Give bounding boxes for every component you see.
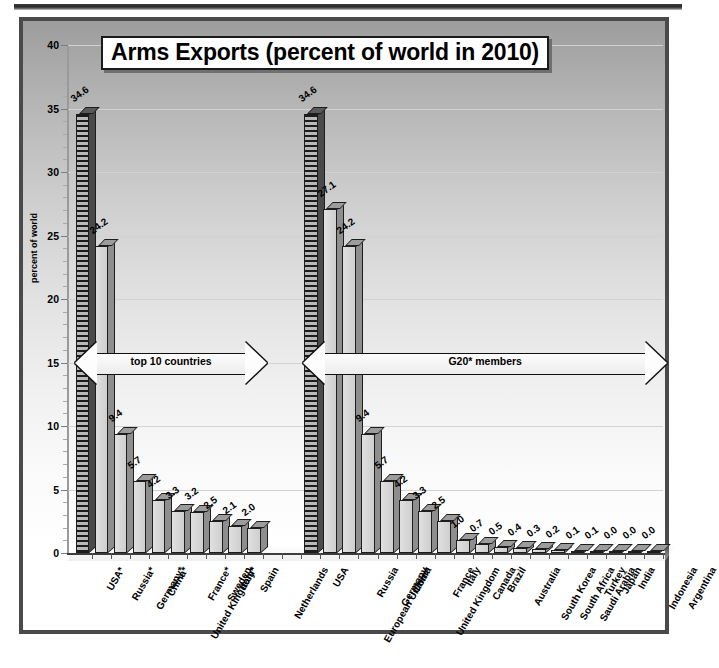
x-tick-mark <box>378 553 379 559</box>
bar: 9.4 <box>114 434 128 553</box>
y-tick-label: 10 <box>47 420 59 432</box>
bar-series: 34.624.29.45.74.23.33.22.52.12.034.627.1… <box>67 45 665 553</box>
x-tick-mark <box>130 553 131 559</box>
bar-front-face <box>114 434 128 553</box>
bar: 24.2 <box>342 246 356 553</box>
top-rule-divider <box>14 4 682 10</box>
bar-value-label: 0.2 <box>544 523 562 540</box>
chart-title: Arms Exports (percent of world in 2010) <box>111 39 539 65</box>
bar: 0.1 <box>590 551 604 553</box>
bar-front-face <box>152 500 166 553</box>
bar-value-label: 0.0 <box>620 524 638 541</box>
bar: 5.7 <box>133 481 147 553</box>
bar: 0.5 <box>494 547 508 553</box>
x-tick-mark <box>663 553 664 559</box>
annotation-arrow-left: top 10 countries <box>75 342 267 384</box>
plot-area: percent of world 0510152025303540 34.624… <box>67 45 665 565</box>
bar-front-face <box>647 551 661 553</box>
x-tick-mark <box>644 553 645 559</box>
x-tick-mark <box>149 553 150 559</box>
bar-front-face <box>190 512 204 553</box>
bar: 34.6 <box>76 114 90 553</box>
chart-title-box: Arms Exports (percent of world in 2010) <box>101 36 549 70</box>
bar: 0.4 <box>513 548 527 553</box>
bar-front-face <box>361 434 375 553</box>
x-axis-line <box>67 553 665 555</box>
bar: 0.0 <box>647 551 661 553</box>
y-tick-label: 35 <box>47 103 59 115</box>
y-tick-label: 30 <box>47 166 59 178</box>
x-tick-mark <box>92 553 93 559</box>
bar: 0.0 <box>609 551 623 553</box>
bar-front-face <box>513 548 527 553</box>
y-axis-title: percent of world <box>29 213 39 283</box>
bar-top-face <box>79 107 99 114</box>
bar: 3.3 <box>171 511 185 553</box>
bar: 24.2 <box>95 246 109 553</box>
chart-frame: Arms Exports (percent of world in 2010) … <box>19 17 669 634</box>
annotation-label-top10: top 10 countries <box>75 355 267 367</box>
x-tick-mark <box>301 553 302 559</box>
bar-value-label: 0.5 <box>487 520 505 537</box>
bar-front-face <box>228 526 242 553</box>
y-tick-label: 40 <box>47 39 59 51</box>
bar-front-face <box>399 500 413 553</box>
bar-front-face <box>456 540 470 553</box>
bar-value-label: 0.0 <box>639 524 657 541</box>
bar-front-face <box>380 481 394 553</box>
x-tick-mark <box>111 553 112 559</box>
bar-top-face <box>631 544 651 551</box>
bar-value-label: 0.3 <box>525 522 543 539</box>
bar-value-label: 0.7 <box>468 517 486 534</box>
x-tick-mark <box>606 553 607 559</box>
bar-value-label: 3.2 <box>182 485 200 502</box>
bar-front-face <box>571 551 585 553</box>
bar: 9.4 <box>361 434 375 553</box>
bar: 0.3 <box>532 549 546 553</box>
y-tick-label: 25 <box>47 230 59 242</box>
bar-front-face <box>95 246 109 553</box>
annotation-arrow-right: G20* members <box>303 342 667 384</box>
bar-front-face <box>628 551 642 553</box>
x-tick-mark <box>282 553 283 559</box>
bar-value-label: 34.6 <box>68 83 90 103</box>
bar: 3.2 <box>190 512 204 553</box>
bar-top-face <box>117 427 137 434</box>
bar: 3.3 <box>418 511 432 553</box>
x-tick-mark <box>568 553 569 559</box>
y-tick-label: 0 <box>53 547 59 559</box>
bar: 2.0 <box>247 528 261 553</box>
bar-front-face <box>418 511 432 553</box>
bar: 2.5 <box>209 521 223 553</box>
x-tick-mark <box>263 553 264 559</box>
bar-front-face <box>342 246 356 553</box>
x-tick-mark <box>187 553 188 559</box>
y-tick-label: 15 <box>47 357 59 369</box>
x-tick-mark <box>530 553 531 559</box>
bar-top-face <box>612 544 632 551</box>
x-tick-mark <box>625 553 626 559</box>
bar-front-face <box>551 550 565 553</box>
bar-front-face <box>437 521 451 553</box>
x-tick-mark <box>206 553 207 559</box>
bar-front-face <box>133 481 147 553</box>
bar: 0.2 <box>551 550 565 553</box>
bar-front-face <box>209 521 223 553</box>
bar-front-face <box>475 544 489 553</box>
bar-value-label: 0.4 <box>506 521 524 538</box>
x-tick-mark <box>454 553 455 559</box>
bar-top-face <box>593 544 613 551</box>
bar: 2.1 <box>228 526 242 553</box>
bar: 5.7 <box>380 481 394 553</box>
bar: 1.0 <box>456 540 470 553</box>
x-tick-mark <box>397 553 398 559</box>
bar: 0.0 <box>628 551 642 553</box>
x-tick-mark <box>225 553 226 559</box>
x-tick-mark <box>587 553 588 559</box>
bar-value-label: 0.1 <box>582 524 600 541</box>
cut-off-caption <box>22 655 667 666</box>
x-tick-mark <box>416 553 417 559</box>
bar-front-face <box>494 547 508 553</box>
bar: 2.5 <box>437 521 451 553</box>
